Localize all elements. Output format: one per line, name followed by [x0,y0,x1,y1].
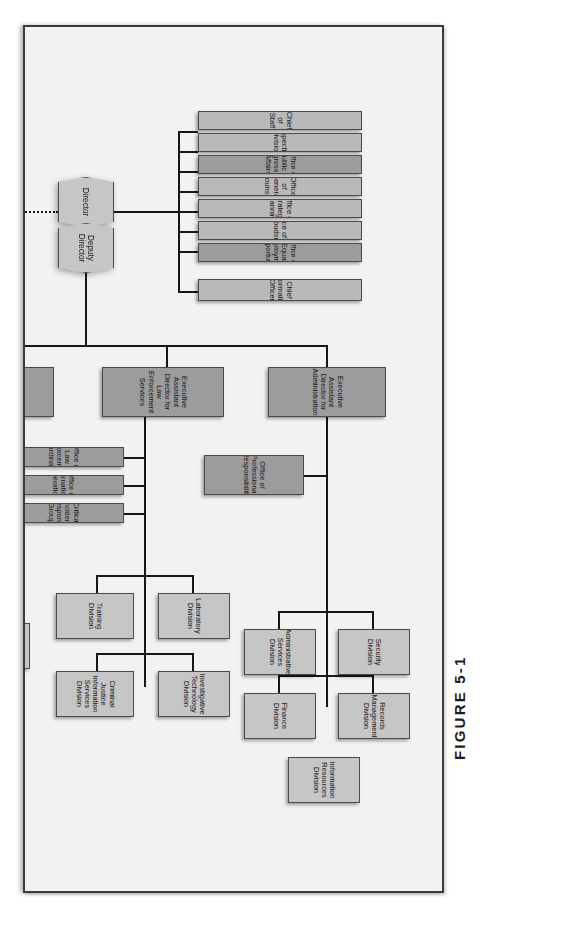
node-label: Information Resources Division [312,759,337,801]
node-label: Security Division [366,631,383,673]
connector-le-office-stub [124,485,146,487]
node-label: Office of Public & Congressional Affairs [263,155,296,174]
connector-le-col1 [96,575,194,577]
node-label: Executive Assistant Director for Adminis… [310,369,343,416]
node-office-professional-responsibility[interactable]: Office of Professional Responsibility [204,455,304,495]
node-label: Critical Incident Response Group [46,503,79,523]
node-office-strategic-planning[interactable]: Office of Strategic Planning [198,199,362,218]
node-label: Executive Assistant Director for Law Enf… [138,369,188,415]
connector-staff-stub [178,151,198,153]
node-training-division[interactable]: Training Division [56,593,134,639]
node-label: Chief Information Officer [267,279,293,301]
connector-le-col2-top [192,653,194,671]
node-ead-law-enforcement-services[interactable]: Executive Assistant Director for Law Enf… [102,367,224,417]
connector-admin-col2 [278,675,374,677]
node-criminal-justice-information-services-division[interactable]: Criminal Justice Information Services Di… [56,671,134,717]
connector-admin-col1 [278,611,374,613]
node-deputy-director[interactable]: Deputy Director [58,223,114,273]
connector-admin-col1-top [372,611,374,629]
node-chief-of-staff[interactable]: Chief of Staff [198,111,362,130]
connector-le-col1-bottom [96,575,98,593]
node-label: Training Division [87,595,104,637]
node-inspection-division[interactable]: Inspection Division [198,133,362,152]
node-administrative-services-division[interactable]: Administrative Services Division [244,629,316,675]
connector-staff-stub [178,131,198,133]
connector-staff-stub [178,191,198,193]
node-label: Chief of Staff [267,112,293,130]
node-label: Office of Equal Employment Opportunity [263,243,296,262]
node-label: Office of the Ombudsman [272,221,289,240]
connector-director-sac-dotted [25,211,58,215]
node-label: Records Management Division [362,694,387,737]
node-finance-division[interactable]: Finance Division [244,693,316,739]
node-laboratory-division[interactable]: Laboratory Division [158,593,230,639]
node-director-group: Director Deputy Director [58,177,114,273]
connector-staff-stub [178,211,198,213]
connector-ead-stub-administration [326,345,328,369]
node-counter-intelligence-division[interactable]: Counter- Intelligence Division [25,623,30,669]
connector-staff-stub [178,291,198,293]
node-ead-counter-terrorism-counter-intelligence[interactable]: Executive Assistant Director for Counter… [25,367,54,417]
node-critical-incident-response-group[interactable]: Critical Incident Response Group [25,503,124,523]
figure-caption: FIGURE 5-1 [447,590,473,760]
node-investigative-technology-division[interactable]: Investigative Technology Division [158,671,230,717]
node-label: Criminal Justice Information Services Di… [74,673,115,715]
node-chief-information-officer[interactable]: Chief Information Officer [198,279,362,301]
node-label: Laboratory Division [186,595,203,637]
node-label: Deputy Director [77,224,95,272]
node-label: Director [82,188,91,217]
node-office-ombudsman[interactable]: Office of the Ombudsman [198,221,362,240]
node-ead-administration[interactable]: Executive Assistant Director for Adminis… [268,367,386,417]
node-label: Office of International Operations [51,475,76,495]
connector-le-office-stub [124,513,146,515]
node-office-equal-employment-opportunity[interactable]: Office of Equal Employment Opportunity [198,243,362,262]
node-label: Office of Professional Responsibility [242,455,267,495]
connector-ead-stub-law-enforcement [166,345,168,369]
connector-le-col2-bottom [96,653,98,671]
node-label: Office of General Counsel [263,177,297,196]
node-office-law-enforcement-coordination[interactable]: Office of Law Enforcement Coordination [25,447,124,467]
connector-ead-spine [25,345,328,347]
figure-page-frame: Chief of Staff Inspection Division Offic… [23,25,444,893]
node-label: Office of Strategic Planning [267,199,293,218]
connector-staff-stub [178,231,198,233]
connector-admin-col2-bottom [278,675,280,693]
node-information-resources-division[interactable]: Information Resources Division [288,757,360,803]
connector-admin-col1-bottom [278,611,280,629]
connector-director-trunk [85,273,87,347]
connector-staff-to-director-vert [114,211,180,213]
node-office-public-congressional-affairs[interactable]: Office of Public & Congressional Affairs [198,155,362,174]
connector-le-office-stub [124,457,146,459]
node-office-general-counsel[interactable]: Office of General Counsel [198,177,362,196]
node-label: Finance Division [272,695,289,737]
connector-admin-opr-stub [304,475,328,477]
connector-staff-stub [178,171,198,173]
node-office-international-operations[interactable]: Office of International Operations [25,475,124,495]
connector-le-col2 [96,653,194,655]
connector-admin-main [326,417,328,707]
node-label: Administrative Services Division [268,629,293,675]
node-label: Investigative Technology Division [182,673,207,715]
node-director[interactable]: Director [58,177,114,227]
node-label: Office of Law Enforcement Coordination [46,447,79,467]
node-security-division[interactable]: Security Division [338,629,410,675]
figure-page-inner: Chief of Staff Inspection Division Offic… [25,27,442,891]
connector-admin-col2-top [372,675,374,693]
org-chart: Chief of Staff Inspection Division Offic… [25,27,442,891]
node-label: Inspection Division [272,133,289,152]
node-records-management-division[interactable]: Records Management Division [338,693,410,739]
connector-le-col1-top [192,575,194,593]
connector-staff-stub [178,251,198,253]
